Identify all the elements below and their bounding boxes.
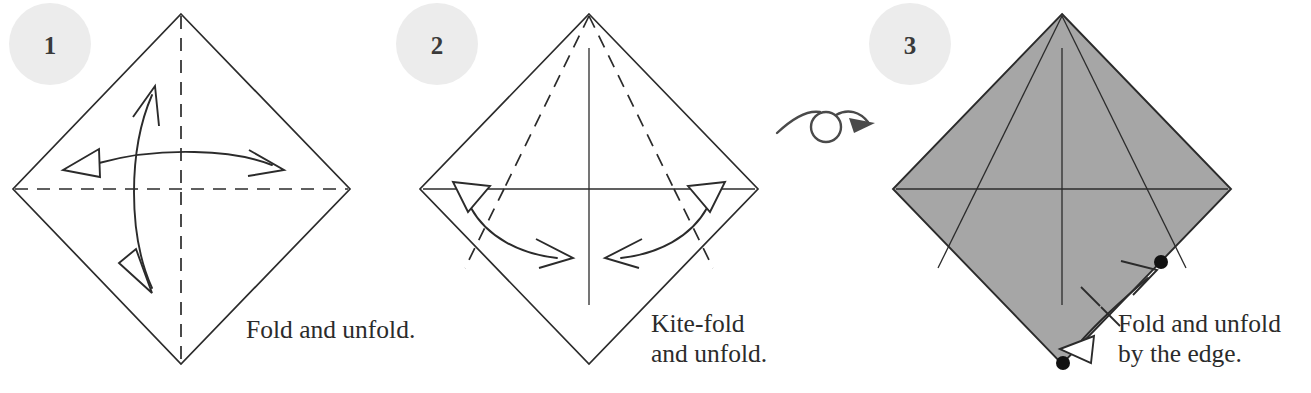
- step-1-vertical-arrow-head-down: [119, 249, 152, 293]
- step-2-right-arrow-shaft: [621, 208, 707, 258]
- step-2-kite-right-crease-upper: [589, 16, 674, 189]
- origami-instruction-diagram: 1 Fold and unfold. 2: [0, 0, 1311, 393]
- turn-over-symbol-arrow-head: [849, 118, 875, 133]
- step-2-right-arrow-head-hollow: [688, 182, 725, 212]
- step-1-horizontal-arrow-shaft: [99, 152, 272, 165]
- step-1-group: 1 Fold and unfold.: [9, 3, 415, 364]
- step-2-left-arrow-head-hollow: [453, 182, 490, 212]
- step-2-right-arrow-head-solid: [605, 239, 642, 268]
- step-3-dot-bottom-vertex: [1056, 356, 1070, 370]
- step-3-caption-line-2: by the edge.: [1118, 339, 1242, 368]
- origami-diagram-canvas: 1 Fold and unfold. 2: [0, 0, 1311, 393]
- step-1-number: 1: [44, 32, 57, 59]
- step-3-group: 3 Fold and unfold by the edge.: [869, 3, 1281, 370]
- step-2-caption-line-2: and unfold.: [651, 339, 767, 368]
- step-1-vertical-arrow-head-up: [133, 86, 159, 126]
- step-2-group: 2 Kite-fold and unfold.: [396, 3, 767, 368]
- step-2-number: 2: [431, 32, 444, 59]
- step-1-caption-line-1: Fold and unfold.: [246, 315, 415, 344]
- step-3-dot-right-kite-intersection: [1154, 255, 1168, 269]
- step-2-caption-line-1: Kite-fold: [651, 309, 745, 338]
- turn-over-symbol: [777, 111, 875, 142]
- step-3-number: 3: [904, 32, 917, 59]
- turn-over-symbol-loop: [811, 112, 841, 142]
- step-2-kite-left-crease-upper: [504, 16, 589, 189]
- step-1-horizontal-arrow-head-left: [63, 149, 100, 177]
- step-3-caption-line-1: Fold and unfold: [1118, 309, 1281, 338]
- step-2-left-arrow-shaft: [471, 208, 557, 258]
- step-2-left-arrow-head-solid: [536, 239, 573, 268]
- turn-over-symbol-tail: [777, 112, 820, 133]
